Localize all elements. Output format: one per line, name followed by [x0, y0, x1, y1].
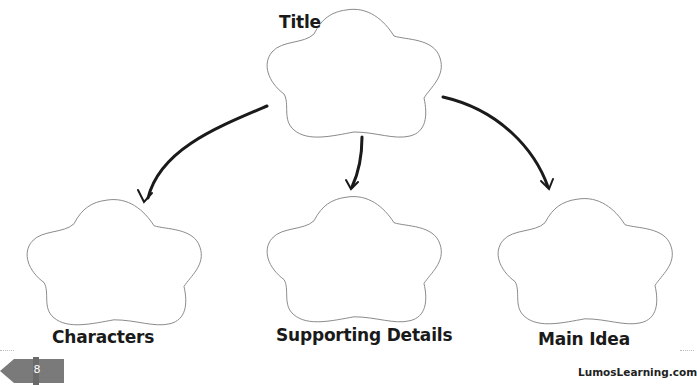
main-idea-label: Main Idea: [538, 329, 630, 349]
arrow-to-main-idea: [443, 97, 553, 189]
footer-divider-right: [680, 350, 694, 351]
supporting-details-cloud: [267, 197, 441, 322]
site-label: LumosLearning.com: [578, 366, 697, 378]
supporting-details-label: Supporting Details: [276, 325, 452, 345]
main-idea-cloud: [498, 199, 672, 324]
page-number: 8: [30, 363, 44, 376]
title-label: Title: [279, 12, 321, 32]
arrow-to-supporting-details: [346, 137, 362, 189]
characters-label: Characters: [52, 327, 154, 347]
footer-divider-left: [0, 350, 14, 351]
characters-cloud: [27, 200, 201, 325]
arrow-to-characters: [138, 106, 267, 202]
